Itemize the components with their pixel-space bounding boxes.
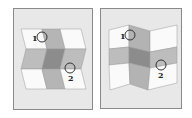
left-panel: 1 2 bbox=[14, 9, 93, 110]
marker-label-1: 1 bbox=[32, 33, 38, 43]
marker-label-1: 1 bbox=[120, 31, 126, 41]
right-left-facet-mid bbox=[109, 47, 129, 65]
marker-label-2: 2 bbox=[68, 73, 74, 83]
right-panel: 1 2 bbox=[101, 9, 182, 109]
marker-label-2: 2 bbox=[158, 70, 164, 80]
figure: 1 2 1 2 bbox=[0, 0, 192, 118]
